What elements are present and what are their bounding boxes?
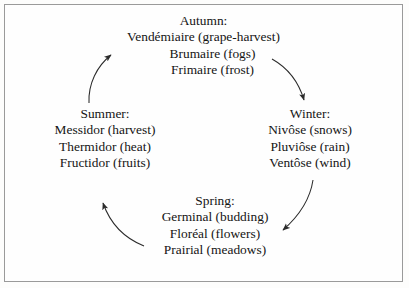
month-frimaire: Frimaire (frost): [16, 62, 409, 78]
month-floreal: Floréal (flowers): [140, 226, 290, 242]
season-heading-winter: Winter:: [235, 106, 385, 122]
season-block-autumn: Autumn: Vendémiaire (grape-harvest) Brum…: [0, 13, 409, 79]
diagram-page: Autumn: Vendémiaire (grape-harvest) Brum…: [0, 0, 409, 288]
month-thermidor: Thermidor (heat): [30, 139, 180, 155]
month-brumaire: Brumaire (fogs): [16, 46, 409, 62]
month-ventose: Ventôse (wind): [235, 155, 385, 171]
month-pluviose: Pluviôse (rain): [235, 139, 385, 155]
season-block-winter: Winter: Nivôse (snows) Pluviôse (rain) V…: [235, 106, 385, 172]
month-fructidor: Fructidor (fruits): [30, 155, 180, 171]
month-vendemiaire: Vendémiaire (grape-harvest): [0, 29, 409, 45]
month-messidor: Messidor (harvest): [30, 122, 180, 138]
season-heading-spring: Spring:: [140, 193, 290, 209]
season-heading-autumn: Autumn:: [0, 13, 409, 29]
season-block-spring: Spring: Germinal (budding) Floréal (flow…: [140, 193, 290, 259]
season-block-summer: Summer: Messidor (harvest) Thermidor (he…: [30, 106, 180, 172]
month-nivose: Nivôse (snows): [235, 122, 385, 138]
season-heading-summer: Summer:: [30, 106, 180, 122]
month-germinal: Germinal (budding): [140, 209, 290, 225]
month-prairial: Prairial (meadows): [140, 242, 290, 258]
